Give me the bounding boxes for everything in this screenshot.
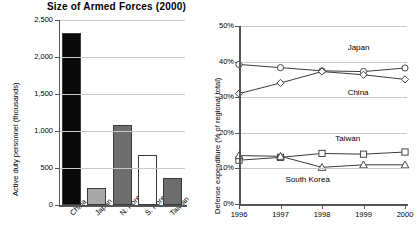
line-gridline <box>239 133 407 134</box>
bar-y-axis-line <box>59 20 60 206</box>
line-series-china <box>235 68 408 97</box>
bar-y-tick-label: 1,500 <box>17 89 53 98</box>
bar-chart-panel: Size of Armed Forces (2000) Active duty … <box>0 0 206 248</box>
bar-china <box>62 33 81 205</box>
marker-china <box>401 76 408 83</box>
bar-x-axis-line <box>59 205 187 207</box>
line-y-axis-line <box>239 26 241 205</box>
bar-chart-y-axis-label: Active duty personnel (thousands) <box>11 83 20 196</box>
bar-taiwan <box>163 178 182 205</box>
marker-taiwan <box>402 149 408 155</box>
bar-gridline <box>59 131 185 132</box>
line-gridline <box>239 62 407 63</box>
series-label-china: China <box>348 88 369 97</box>
bar-chart-title: Size of Armed Forces (2000) <box>47 1 186 12</box>
bar-japan <box>87 188 106 205</box>
bar-gridline <box>59 20 185 21</box>
line-gridline <box>239 97 407 98</box>
line-gridline <box>239 26 407 27</box>
marker-china <box>277 79 284 86</box>
bar-n-korea <box>113 125 132 205</box>
line-gridline <box>239 168 407 169</box>
bar-gridline <box>59 57 185 58</box>
bar-y-tick-label: 2,000 <box>17 52 53 61</box>
bar-y-tick-label: 2,500 <box>17 15 53 24</box>
series-label-south-korea: South Korea <box>285 175 329 184</box>
line-x-axis-line <box>239 204 408 206</box>
line-series-group <box>206 0 412 248</box>
series-label-taiwan: Taiwan <box>335 134 360 143</box>
marker-japan <box>402 65 408 71</box>
bar-s-korea <box>138 155 157 205</box>
bar-gridline <box>59 94 185 95</box>
bar-y-tick-label: 1,000 <box>17 126 53 135</box>
marker-taiwan <box>319 150 325 156</box>
series-label-japan: Japan <box>348 43 370 52</box>
bar-y-tick-label: 0 <box>17 200 53 209</box>
marker-japan <box>277 65 283 71</box>
bar-y-tick-label: 500 <box>17 163 53 172</box>
bar-gridline <box>59 168 185 169</box>
line-chart-panel: Defense expenditure (% of regional total… <box>206 0 412 248</box>
marker-taiwan <box>360 151 366 157</box>
